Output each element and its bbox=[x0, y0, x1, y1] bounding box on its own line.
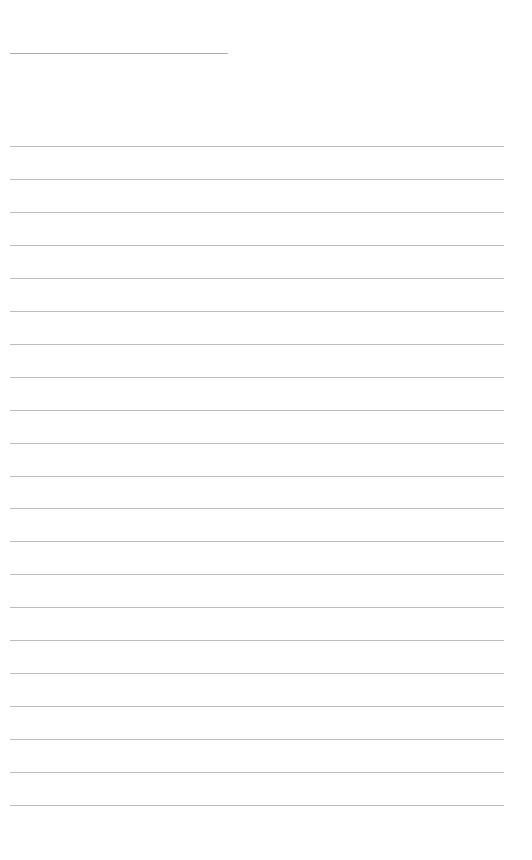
ruled-line bbox=[10, 607, 504, 608]
ruled-line bbox=[10, 574, 504, 575]
ruled-line bbox=[10, 739, 504, 740]
ruled-line bbox=[10, 410, 504, 411]
ruled-line bbox=[10, 377, 504, 378]
ruled-line bbox=[10, 476, 504, 477]
ruled-line bbox=[10, 212, 504, 213]
ruled-line bbox=[10, 245, 504, 246]
ruled-line bbox=[10, 805, 504, 806]
ruled-line bbox=[10, 508, 504, 509]
ruled-line bbox=[10, 706, 504, 707]
ruled-line bbox=[10, 179, 504, 180]
ruled-line bbox=[10, 278, 504, 279]
ruled-line bbox=[10, 443, 504, 444]
ruled-lines-area bbox=[10, 0, 504, 860]
ruled-line bbox=[10, 673, 504, 674]
ruled-line bbox=[10, 541, 504, 542]
ruled-line bbox=[10, 344, 504, 345]
ruled-line bbox=[10, 311, 504, 312]
ruled-line bbox=[10, 772, 504, 773]
ruled-line bbox=[10, 146, 504, 147]
ruled-line bbox=[10, 640, 504, 641]
